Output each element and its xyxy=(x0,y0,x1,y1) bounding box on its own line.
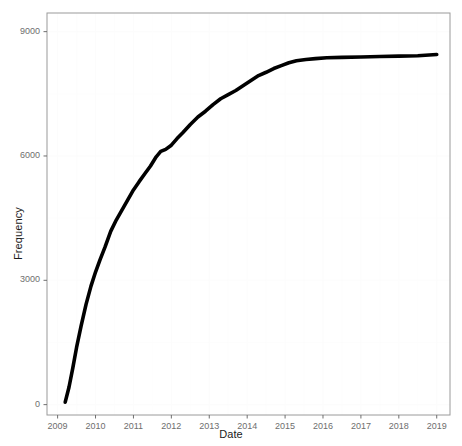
y-tick-label: 3000 xyxy=(0,274,40,284)
x-tick-label: 2012 xyxy=(151,421,191,431)
x-tick-label: 2009 xyxy=(38,421,78,431)
y-tick-label: 9000 xyxy=(0,26,40,36)
chart-container: Date Frequency 0300060009000200920102011… xyxy=(0,0,462,446)
y-tick-label: 0 xyxy=(0,399,40,409)
x-tick-label: 2016 xyxy=(303,421,343,431)
x-tick-label: 2010 xyxy=(76,421,116,431)
x-tick-label: 2018 xyxy=(379,421,419,431)
y-axis-title: Frequency xyxy=(12,207,24,260)
plot-panel-background xyxy=(47,13,450,415)
line-chart-plot xyxy=(0,0,462,446)
x-tick-label: 2013 xyxy=(189,421,229,431)
x-tick-label: 2015 xyxy=(265,421,305,431)
x-tick-label: 2017 xyxy=(341,421,381,431)
x-tick-label: 2014 xyxy=(227,421,267,431)
y-tick-label: 6000 xyxy=(0,150,40,160)
x-tick-label: 2011 xyxy=(113,421,153,431)
x-tick-label: 2019 xyxy=(417,421,457,431)
